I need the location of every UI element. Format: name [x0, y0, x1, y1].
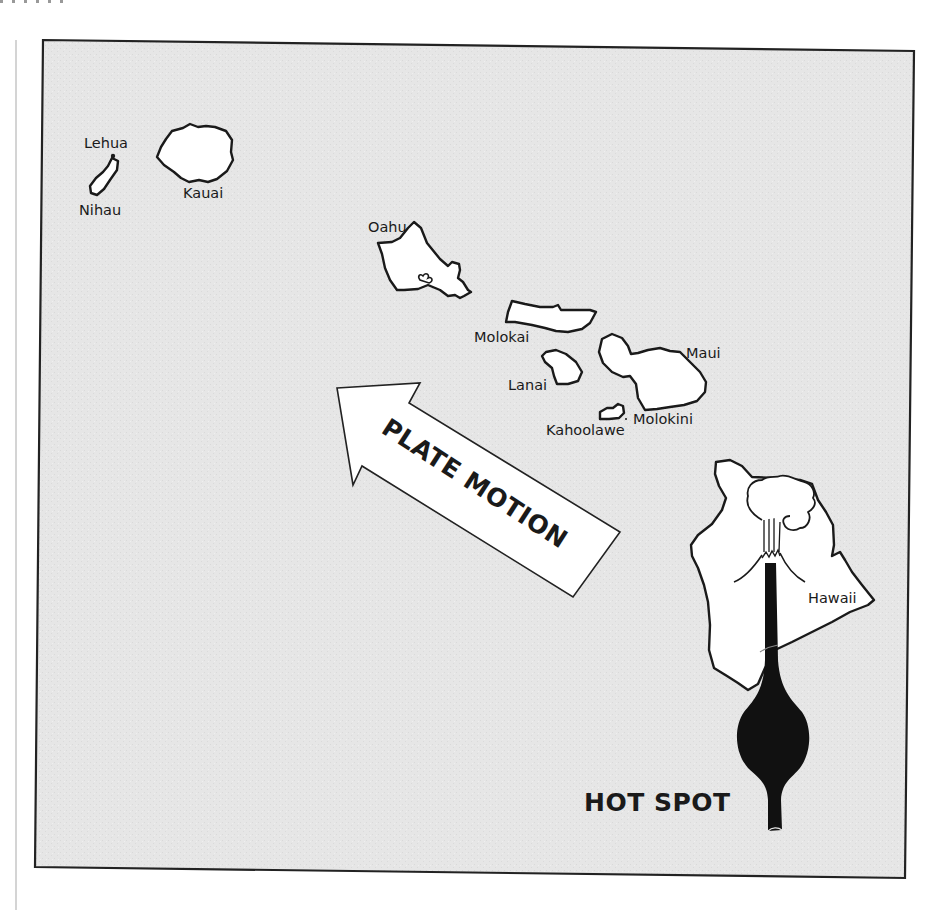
island-molokini: [625, 418, 627, 420]
label-nihau: Nihau: [79, 202, 121, 218]
label-kahoolawe: Kahoolawe: [546, 422, 625, 438]
label-oahu: Oahu: [368, 219, 407, 235]
page-margin-line: [15, 40, 17, 910]
label-molokai: Molokai: [474, 329, 529, 345]
label-hawaii: Hawaii: [808, 590, 857, 606]
scan-artifact: [0, 0, 70, 3]
label-molokini: Molokini: [633, 411, 693, 427]
hotspot-diagram: PLATE MOTION Lehua Nihau Kauai Oahu Molo…: [0, 0, 937, 910]
label-lanai: Lanai: [508, 377, 547, 393]
hot-spot-label: HOT SPOT: [584, 788, 731, 817]
label-kauai: Kauai: [183, 185, 223, 201]
island-lehua: [111, 154, 115, 158]
map-svg: PLATE MOTION Lehua Nihau Kauai Oahu Molo…: [0, 0, 937, 910]
label-lehua: Lehua: [84, 135, 128, 151]
label-maui: Maui: [686, 345, 721, 361]
